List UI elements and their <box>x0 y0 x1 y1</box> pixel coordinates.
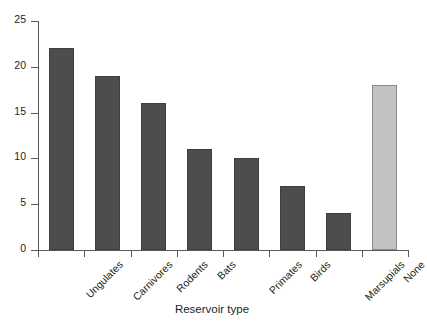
y-tick-10 <box>31 158 38 159</box>
bars-container <box>38 21 408 250</box>
bar-rodents <box>141 103 166 250</box>
y-tick-0 <box>31 250 38 251</box>
y-tick-label-wrap: 25 <box>0 21 26 22</box>
y-tick-label: 25 <box>14 14 26 25</box>
y-tick-15 <box>31 113 38 114</box>
category-label-carnivores: Carnivores <box>131 259 174 302</box>
y-tick-label: 5 <box>20 197 26 208</box>
category-label-rodents: Rodents <box>174 259 209 294</box>
category-label-none: None <box>401 259 426 284</box>
y-tick-label: 20 <box>14 60 26 71</box>
bar-ungulates <box>49 48 74 250</box>
category-label-marsupials: Marsupials <box>362 259 405 302</box>
bar-marsupials <box>326 213 351 250</box>
x-tick <box>131 251 132 257</box>
y-tick-label-wrap: 10 <box>0 158 26 159</box>
y-tick-label: 0 <box>20 243 26 254</box>
x-tick <box>38 251 39 257</box>
y-tick-label-wrap: 5 <box>0 204 26 205</box>
category-label-ungulates: Ungulates <box>84 259 125 300</box>
x-tick <box>362 251 363 257</box>
x-tick <box>223 251 224 257</box>
bar-birds <box>280 186 305 250</box>
y-tick-label: 10 <box>14 151 26 162</box>
bar-carnivores <box>95 76 120 250</box>
y-tick-20 <box>31 67 38 68</box>
bar-primates <box>234 158 259 250</box>
category-label-bats: Bats <box>215 259 237 281</box>
x-tick <box>84 251 85 257</box>
y-tick-25 <box>31 21 38 22</box>
x-axis-title: Reservoir type <box>0 303 424 315</box>
x-tick <box>316 251 317 257</box>
category-label-primates: Primates <box>267 259 304 296</box>
y-tick-5 <box>31 204 38 205</box>
y-tick-label-wrap: 15 <box>0 113 26 114</box>
category-label-birds: Birds <box>308 259 332 283</box>
x-tick <box>177 251 178 257</box>
y-tick-label-wrap: 0 <box>0 250 26 251</box>
x-tick <box>269 251 270 257</box>
bar-none <box>372 85 397 250</box>
y-tick-label-wrap: 20 <box>0 67 26 68</box>
bar-bats <box>187 149 212 250</box>
y-tick-label: 15 <box>14 106 26 117</box>
x-tick <box>408 251 409 257</box>
